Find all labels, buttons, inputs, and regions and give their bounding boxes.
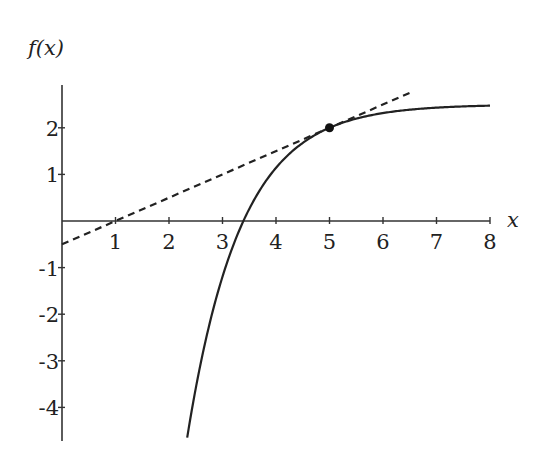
function-plot: 12345678 -4-3-2-112 f(x) x [0,0,546,457]
x-ticks: 12345678 [109,217,497,254]
tangent-point [325,123,334,132]
y-tick-label: 2 [46,117,59,141]
x-tick-label: 8 [483,230,496,254]
x-tick-label: 1 [109,230,122,254]
x-tick-label: 4 [269,230,282,254]
x-tick-label: 5 [323,230,336,254]
x-tick-label: 6 [376,230,389,254]
y-tick-label: -2 [39,303,59,327]
y-tick-label: 1 [46,163,59,187]
y-tick-label: -1 [39,257,59,281]
x-axis-label: x [507,208,519,232]
y-tick-label: -4 [39,396,59,420]
function-curve [187,106,490,438]
y-axis-label: f(x) [26,36,64,60]
x-tick-label: 7 [430,230,443,254]
axes [62,85,490,441]
x-tick-label: 3 [216,230,229,254]
y-ticks: -4-3-2-112 [39,117,65,421]
x-tick-label: 2 [162,230,175,254]
y-tick-label: -3 [39,350,59,374]
